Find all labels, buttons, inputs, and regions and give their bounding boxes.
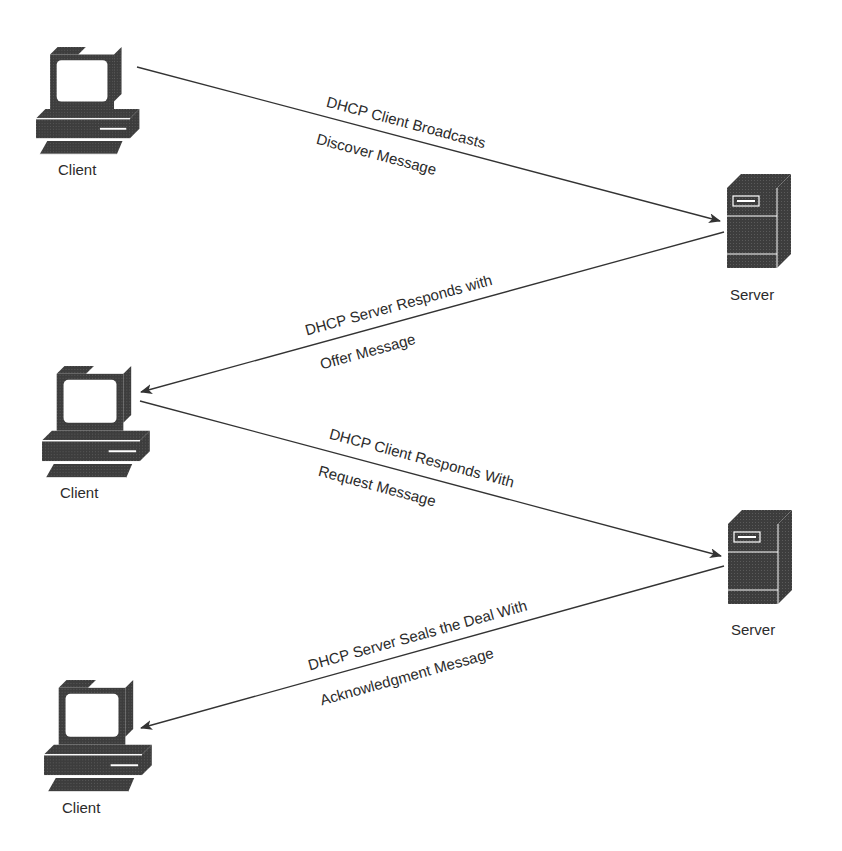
ack-arrow	[141, 566, 724, 728]
client-computer-icon	[44, 680, 152, 792]
server-label: Server	[730, 286, 774, 303]
client-computer-icon	[36, 47, 139, 154]
server-icon	[728, 510, 792, 604]
discover-arrow	[137, 67, 720, 221]
client-label: Client	[62, 799, 100, 816]
server-icon	[727, 174, 791, 268]
offer-arrow	[141, 232, 724, 392]
client-label: Client	[60, 484, 98, 501]
client-computer-icon	[42, 366, 150, 478]
request-arrow	[140, 401, 721, 556]
server-label: Server	[731, 621, 775, 638]
client-label: Client	[58, 161, 96, 178]
